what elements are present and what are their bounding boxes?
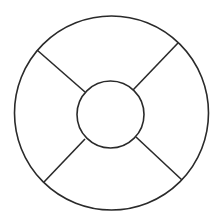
spoke-upper-left <box>37 50 85 92</box>
inner-circle <box>77 81 144 148</box>
spokes <box>37 43 182 182</box>
spoke-lower-right <box>136 137 182 180</box>
outer-circle <box>15 16 209 210</box>
spoke-lower-left <box>44 139 85 182</box>
ring-diagram <box>0 0 220 222</box>
spoke-upper-right <box>133 43 178 90</box>
